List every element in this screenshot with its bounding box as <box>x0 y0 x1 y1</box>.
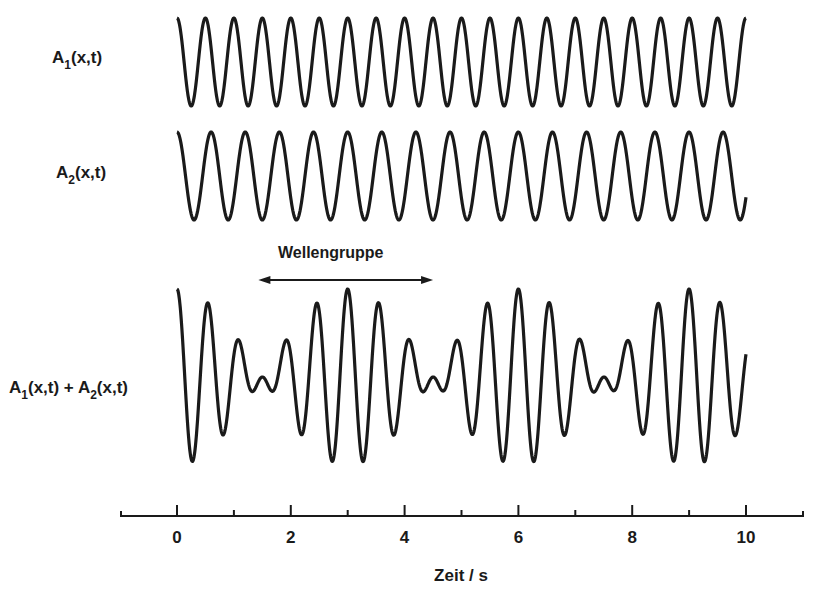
wave-a1-line <box>177 18 746 106</box>
x-tick-label: 6 <box>514 528 523 548</box>
x-tick-label: 10 <box>737 528 756 548</box>
x-tick-label: 8 <box>627 528 636 548</box>
wave-sum-line <box>177 289 746 462</box>
chart-plot-area <box>0 0 813 599</box>
wave-a2-line <box>177 132 746 220</box>
x-tick-label: 0 <box>172 528 181 548</box>
wave-group-double-arrow <box>258 276 433 284</box>
x-tick-label: 2 <box>286 528 295 548</box>
x-axis <box>120 505 804 516</box>
x-tick-label: 4 <box>400 528 409 548</box>
x-axis-title: Zeit / s <box>434 566 488 586</box>
